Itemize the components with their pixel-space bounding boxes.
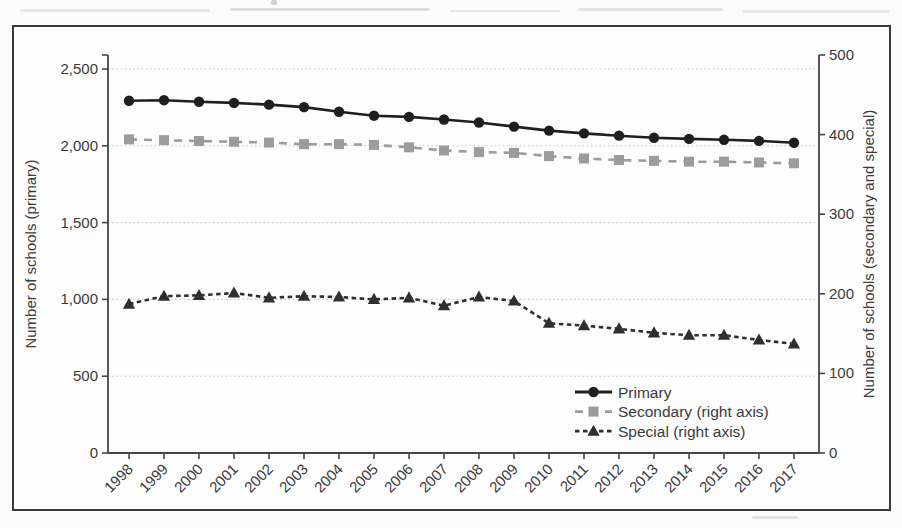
data-point-circle <box>588 387 598 397</box>
legend-item-special: Special (right axis) <box>575 423 746 440</box>
data-point-circle <box>369 110 379 120</box>
data-point-circle <box>334 107 344 117</box>
x-axis-tick-label: 2008 <box>451 460 487 496</box>
left-axis-tick-label: 0 <box>90 444 98 461</box>
grid-lines <box>108 69 819 376</box>
data-point-circle <box>159 95 169 105</box>
data-point-circle <box>124 96 134 106</box>
data-point-triangle <box>587 425 599 436</box>
x-axis-tick-label: 2015 <box>696 460 732 496</box>
data-point-circle <box>509 121 519 131</box>
x-axis-tick-label: 2010 <box>521 460 557 496</box>
series-line <box>129 139 794 163</box>
data-point-square <box>194 136 204 146</box>
x-axis-tick-label: 2012 <box>591 460 627 496</box>
legend-item-primary: Primary <box>575 384 672 401</box>
data-point-square <box>544 151 554 161</box>
legend-label: Secondary (right axis) <box>618 403 769 420</box>
data-point-triangle <box>473 290 485 301</box>
data-point-triangle <box>788 337 800 348</box>
schools-chart: 05001,0001,5002,0002,5000100200300400500… <box>0 0 902 528</box>
x-axis-tick-label: 2003 <box>276 460 312 496</box>
data-point-square <box>404 142 414 152</box>
data-point-triangle <box>683 329 695 340</box>
series-special <box>123 287 800 349</box>
data-point-circle <box>264 99 274 109</box>
data-point-square <box>789 158 799 168</box>
data-point-square <box>649 156 659 166</box>
data-point-square <box>579 153 589 163</box>
left-axis-tick-label: 2,000 <box>60 137 98 154</box>
data-point-circle <box>719 135 729 145</box>
scanned-page: 05001,0001,5002,0002,5000100200300400500… <box>0 0 902 528</box>
legend: PrimarySecondary (right axis)Special (ri… <box>575 384 769 440</box>
series <box>123 95 800 349</box>
data-point-circle <box>754 136 764 146</box>
x-axis-tick-label: 2000 <box>171 460 207 496</box>
legend-label: Special (right axis) <box>618 423 746 440</box>
right-axis-tick-label: 500 <box>829 46 854 63</box>
data-point-circle <box>474 117 484 127</box>
data-point-square <box>614 155 624 165</box>
data-point-triangle <box>613 322 625 333</box>
x-axis-tick-label: 2013 <box>626 460 662 496</box>
series-primary <box>124 95 799 148</box>
x-axis-tick-label: 2011 <box>556 460 591 495</box>
data-point-square <box>589 407 599 417</box>
data-point-circle <box>649 133 659 143</box>
data-point-circle <box>614 130 624 140</box>
left-axis-tick-label: 500 <box>73 367 98 384</box>
right-axis-tick-label: 400 <box>829 126 854 143</box>
x-axis-tick-label: 2005 <box>346 460 382 496</box>
data-point-circle <box>299 102 309 112</box>
x-axis-tick-label: 2002 <box>241 460 277 496</box>
legend-item-secondary: Secondary (right axis) <box>575 403 769 420</box>
data-point-circle <box>404 112 414 122</box>
data-point-square <box>509 148 519 158</box>
x-axis-tick-label: 2017 <box>766 460 802 496</box>
x-axis-tick-label: 2001 <box>206 460 242 496</box>
x-axis-tick-label: 2004 <box>311 460 347 496</box>
data-point-square <box>719 157 729 167</box>
x-axis-tick-label: 1998 <box>101 460 137 496</box>
x-axis-tick-label: 2007 <box>416 460 452 496</box>
data-point-circle <box>544 125 554 135</box>
right-axis-tick-label: 300 <box>829 205 854 222</box>
series-line <box>129 100 794 143</box>
x-axis-tick-label: 1999 <box>136 460 172 496</box>
data-point-circle <box>439 114 449 124</box>
data-point-circle <box>579 128 589 138</box>
data-point-triangle <box>403 291 415 302</box>
x-axis-tick-label: 2006 <box>381 460 417 496</box>
data-point-circle <box>194 97 204 107</box>
data-point-square <box>369 140 379 150</box>
left-axis-tick-label: 1,500 <box>60 214 98 231</box>
right-axis-tick-label: 0 <box>829 444 837 461</box>
left-axis-tick-label: 1,000 <box>60 290 98 307</box>
series-line <box>129 293 794 344</box>
data-point-square <box>159 135 169 145</box>
right-axis-title: Number of schools (secondary and special… <box>860 110 877 398</box>
data-point-square <box>684 157 694 167</box>
x-axis-tick-label: 2014 <box>661 460 697 496</box>
data-point-square <box>474 147 484 157</box>
data-point-square <box>299 139 309 149</box>
data-point-triangle <box>333 290 345 301</box>
data-point-circle <box>229 98 239 108</box>
right-axis-tick-label: 100 <box>829 364 854 381</box>
data-point-circle <box>789 138 799 148</box>
data-point-square <box>754 157 764 167</box>
left-axis-tick-label: 2,500 <box>60 60 98 77</box>
data-point-square <box>439 146 449 156</box>
left-axis-title: Number of schools (primary) <box>22 159 39 348</box>
x-axis-tick-label: 2016 <box>731 460 767 496</box>
data-point-square <box>264 138 274 148</box>
data-point-square <box>124 134 134 144</box>
data-point-circle <box>684 134 694 144</box>
legend-label: Primary <box>618 384 672 401</box>
data-point-square <box>229 137 239 147</box>
x-axis-tick-label: 2009 <box>486 460 522 496</box>
data-point-triangle <box>753 333 765 344</box>
data-point-triangle <box>228 287 240 298</box>
right-axis-tick-label: 200 <box>829 285 854 302</box>
